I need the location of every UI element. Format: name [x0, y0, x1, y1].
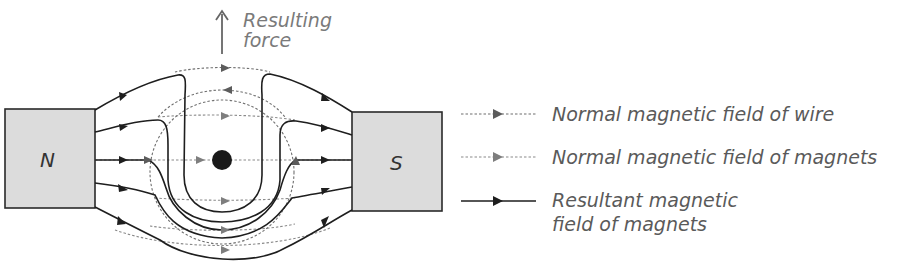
wire-cross-section	[212, 150, 232, 170]
legend-label-wire-field: Normal magnetic field of wire	[552, 103, 834, 125]
legend-label-resultant-line2: field of magnets	[552, 213, 707, 235]
north-magnet: N	[5, 109, 95, 208]
south-pole-label: S	[390, 151, 403, 175]
north-pole-label: N	[40, 148, 55, 172]
south-magnet: S	[352, 112, 442, 211]
motor-effect-diagram: N S	[0, 0, 903, 269]
legend-label-magnet-field: Normal magnetic field of magnets	[552, 146, 877, 168]
legend-label-resultant-line1: Resultant magnetic	[552, 189, 738, 211]
magnet-field-arrowheads	[196, 112, 230, 254]
legend-item-wire-field: Normal magnetic field of wire	[461, 103, 834, 125]
resulting-force-arrow	[216, 11, 228, 54]
legend-item-resultant-field: Resultant magnetic field of magnets	[461, 189, 738, 235]
legend-item-magnet-field: Normal magnetic field of magnets	[461, 146, 877, 168]
force-label-line2: force	[243, 29, 291, 51]
force-label-line1: Resulting	[243, 9, 332, 31]
legend: Normal magnetic field of wire Normal mag…	[461, 103, 877, 235]
